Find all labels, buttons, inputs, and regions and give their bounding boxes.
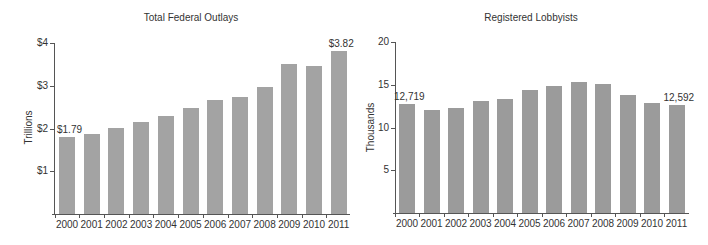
chart-title: Total Federal Outlays (144, 12, 239, 23)
x-tick (153, 214, 154, 218)
x-tick-label: 2003 (469, 218, 493, 229)
x-tick (228, 214, 229, 218)
x-tick (591, 213, 592, 217)
y-tick-label: 15 (359, 79, 389, 90)
x-tick-label: 2005 (518, 218, 542, 229)
x-tick (444, 213, 445, 217)
x-tick (302, 214, 303, 218)
x-tick (640, 213, 641, 217)
x-tick-label: 2004 (493, 218, 517, 229)
bar-2011 (331, 51, 347, 214)
y-tick (391, 42, 395, 43)
x-tick (493, 213, 494, 217)
bar-2006 (207, 100, 223, 214)
bar-2002 (108, 128, 124, 214)
y-tick (391, 170, 395, 171)
data-label-2000: 12,719 (394, 91, 425, 102)
x-tick-label: 2008 (591, 218, 615, 229)
x-tick (326, 214, 327, 218)
x-tick (566, 213, 567, 217)
x-tick-label: 2002 (104, 219, 128, 230)
y-tick (50, 129, 54, 130)
x-tick (395, 213, 396, 217)
bar-2008 (257, 87, 273, 214)
chart-title: Registered Lobbyists (484, 12, 577, 23)
bar-2008 (595, 84, 611, 213)
x-tick (664, 213, 665, 217)
y-tick (50, 86, 54, 87)
y-tick (391, 85, 395, 86)
x-tick-label: 2011 (327, 219, 351, 230)
bar-2004 (497, 99, 513, 213)
bar-2000 (59, 137, 75, 214)
bar-2011 (669, 105, 685, 213)
data-label-2000: $1.79 (57, 124, 82, 135)
bar-2002 (448, 108, 464, 213)
bar-2006 (546, 86, 562, 213)
x-tick (104, 214, 105, 218)
x-tick (178, 214, 179, 218)
y-tick-label: 5 (359, 164, 389, 175)
x-tick (277, 214, 278, 218)
bar-2000 (399, 104, 415, 213)
x-tick-label: 2002 (444, 218, 468, 229)
bar-2004 (158, 116, 174, 214)
bar-2001 (84, 134, 100, 214)
x-tick (55, 214, 56, 218)
x-tick-label: 2007 (567, 218, 591, 229)
bar-2010 (306, 66, 322, 214)
x-axis (52, 214, 350, 215)
x-tick-label: 2000 (395, 218, 419, 229)
bar-2005 (522, 90, 538, 213)
x-tick-label: 2001 (420, 218, 444, 229)
x-tick (252, 214, 253, 218)
x-tick (129, 214, 130, 218)
x-tick-label: 2006 (542, 218, 566, 229)
y-tick-label: $3 (18, 80, 48, 91)
bar-2009 (281, 64, 297, 214)
x-tick (79, 214, 80, 218)
bar-2001 (424, 110, 440, 213)
y-axis (395, 42, 396, 214)
y-tick-label: 10 (359, 122, 389, 133)
bar-2003 (473, 101, 489, 213)
bar-2007 (232, 97, 248, 214)
x-tick-label: 2008 (253, 219, 277, 230)
x-tick-label: 2010 (640, 218, 664, 229)
registered-lobbyists-chart: Registered Lobbyists Thousands 510152020… (354, 0, 708, 245)
y-tick-label: $2 (18, 123, 48, 134)
y-tick-label: $4 (18, 37, 48, 48)
y-tick (50, 171, 54, 172)
x-tick-label: 2003 (129, 219, 153, 230)
x-tick (419, 213, 420, 217)
x-tick-label: 2009 (616, 218, 640, 229)
y-tick-label: 20 (359, 36, 389, 47)
x-tick-label: 2000 (55, 219, 79, 230)
bar-2010 (644, 103, 660, 213)
bar-2003 (133, 122, 149, 214)
bar-2005 (183, 108, 199, 214)
y-tick-label: $1 (18, 165, 48, 176)
x-tick-label: 2009 (277, 219, 301, 230)
y-tick (50, 43, 54, 44)
bar-2007 (571, 82, 587, 213)
y-axis (54, 43, 55, 215)
x-tick (517, 213, 518, 217)
x-tick (203, 214, 204, 218)
x-tick-label: 2004 (154, 219, 178, 230)
data-label-2011: 12,592 (664, 92, 695, 103)
x-tick (468, 213, 469, 217)
x-tick-label: 2010 (302, 219, 326, 230)
x-tick (542, 213, 543, 217)
y-tick (391, 128, 395, 129)
federal-outlays-chart: Total Federal Outlays Trillions $1$2$3$4… (0, 0, 354, 245)
x-tick (615, 213, 616, 217)
data-label-2011: $3.82 (329, 38, 354, 49)
x-tick-label: 2006 (203, 219, 227, 230)
x-tick-label: 2005 (179, 219, 203, 230)
x-tick-label: 2011 (665, 218, 689, 229)
x-tick-label: 2007 (228, 219, 252, 230)
bar-2009 (620, 95, 636, 213)
x-tick-label: 2001 (80, 219, 104, 230)
